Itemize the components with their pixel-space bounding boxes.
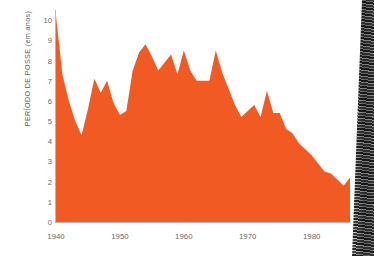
y-tick-5: 5 <box>48 117 52 126</box>
x-tick-1970: 1970 <box>239 232 256 241</box>
plot-area <box>56 10 350 222</box>
scan-edge-artifact <box>352 0 374 256</box>
x-tick-1980: 1980 <box>303 232 320 241</box>
x-tick-1940: 1940 <box>47 232 64 241</box>
y-tick-8: 8 <box>48 56 52 65</box>
y-axis-tick-labels: 012345678910 <box>30 10 52 222</box>
chart-figure: PERÍODO DE POSSE (em anos) 012345678910 … <box>0 0 374 256</box>
area-chart-svg <box>56 10 350 222</box>
y-tick-0: 0 <box>48 218 52 227</box>
area-series-path <box>56 16 350 222</box>
y-tick-1: 1 <box>48 197 52 206</box>
x-tick-1960: 1960 <box>175 232 192 241</box>
y-tick-9: 9 <box>48 36 52 45</box>
y-tick-3: 3 <box>48 157 52 166</box>
y-tick-4: 4 <box>48 137 52 146</box>
y-tick-10: 10 <box>44 16 52 25</box>
y-tick-2: 2 <box>48 177 52 186</box>
x-tick-1950: 1950 <box>111 232 128 241</box>
x-axis-tick-labels: 19401950196019701980 <box>0 232 374 248</box>
x-axis-line <box>55 222 351 223</box>
y-tick-7: 7 <box>48 76 52 85</box>
y-tick-6: 6 <box>48 96 52 105</box>
